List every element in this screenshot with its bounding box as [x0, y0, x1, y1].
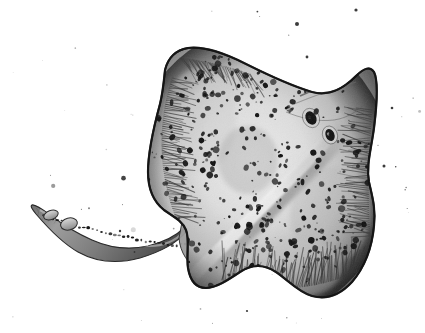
illustration-canvas: Thornback skate (ray) ink and wash illus… — [0, 0, 425, 333]
skate-ray-illustration — [0, 0, 425, 333]
